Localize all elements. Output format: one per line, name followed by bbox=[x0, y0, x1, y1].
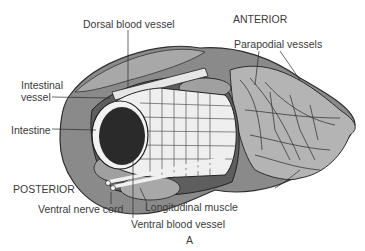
label-intestine: Intestine bbox=[11, 124, 51, 136]
label-anterior: ANTERIOR bbox=[233, 13, 287, 25]
label-intestinal-vessel-line2: vessel bbox=[21, 91, 51, 103]
label-ventral-nerve-cord: Ventral nerve cord bbox=[38, 203, 123, 215]
label-intestinal-vessel-line1: Intestinal bbox=[21, 79, 63, 91]
ventral-nerve-cord-end bbox=[106, 181, 111, 186]
label-longitudinal-muscle: Longitudinal muscle bbox=[145, 201, 238, 213]
label-parapodial-vessels: Parapodial vessels bbox=[234, 38, 322, 50]
label-posterior: POSTERIOR bbox=[13, 183, 75, 195]
label-ventral-blood-vessel: Ventral blood vessel bbox=[131, 218, 225, 230]
ventral-blood-vessel-end bbox=[111, 186, 116, 191]
label-dorsal-blood-vessel: Dorsal blood vessel bbox=[83, 18, 175, 30]
panel-label: A bbox=[186, 234, 193, 246]
